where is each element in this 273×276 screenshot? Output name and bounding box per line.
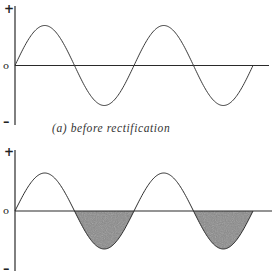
panel-after-rectification: + o – bbox=[3, 145, 272, 276]
zero-label: o bbox=[3, 205, 9, 216]
plus-label: + bbox=[4, 145, 14, 159]
shaded-negative-half-cycles bbox=[75, 211, 254, 249]
zero-label: o bbox=[3, 60, 9, 71]
caption: (a) before rectification bbox=[52, 122, 170, 135]
rectification-diagram: + o – (a) before rectification + o – bbox=[0, 0, 273, 276]
plus-label: + bbox=[4, 2, 14, 16]
panel-before-rectification: + o – (a) before rectification bbox=[3, 2, 269, 135]
minus-label: – bbox=[3, 114, 10, 129]
minus-label: – bbox=[3, 261, 10, 276]
